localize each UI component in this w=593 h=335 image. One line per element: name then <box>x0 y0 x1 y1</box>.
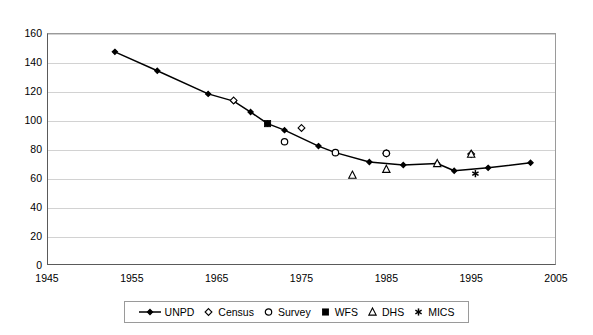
legend-marker-census-icon <box>203 306 214 318</box>
data-point-open-circle <box>265 309 271 315</box>
legend-label: Census <box>218 307 254 318</box>
legend-label: DHS <box>382 307 404 318</box>
legend-item-wfs[interactable]: WFS <box>320 306 358 318</box>
data-point-filled-diamond <box>316 144 321 149</box>
data-point-filled-diamond <box>367 159 372 164</box>
legend-item-dhs[interactable]: DHS <box>367 306 404 318</box>
legend-label: UNPD <box>165 307 195 318</box>
data-point-open-circle <box>383 150 389 156</box>
data-point-asterisk <box>416 308 422 315</box>
x-tick-label: 1965 <box>205 272 228 284</box>
chart-legend: UNPDCensusSurveyWFSDHSMICS <box>124 301 469 323</box>
x-tick-label: 1985 <box>375 272 398 284</box>
legend-label: Survey <box>278 307 311 318</box>
legend-marker-unpd-icon <box>139 306 161 318</box>
x-tick-label: 1955 <box>120 272 143 284</box>
chart-figure: 160140120100806040200 194519551965197519… <box>0 0 593 335</box>
data-point-open-triangle <box>369 308 376 315</box>
data-point-filled-diamond <box>155 68 160 73</box>
data-point-open-diamond <box>205 309 212 316</box>
data-point-filled-diamond <box>147 309 152 314</box>
data-point-filled-diamond <box>206 91 211 96</box>
legend-item-mics[interactable]: MICS <box>413 306 454 318</box>
data-point-filled-square <box>322 309 328 315</box>
legend-label: MICS <box>428 307 454 318</box>
data-point-filled-square <box>264 121 270 127</box>
data-point-open-diamond <box>298 125 305 132</box>
legend-marker-dhs-icon <box>367 306 378 318</box>
data-point-filled-diamond <box>401 162 406 167</box>
data-point-filled-diamond <box>452 168 457 173</box>
x-tick-label: 2005 <box>544 272 567 284</box>
x-tick-label: 1945 <box>35 272 58 284</box>
series-survey <box>281 139 389 157</box>
legend-marker-survey-icon <box>263 306 274 318</box>
data-point-filled-diamond <box>112 49 117 54</box>
series-census <box>230 97 474 157</box>
legend-marker-mics-icon <box>413 306 424 318</box>
data-point-open-circle <box>332 149 338 155</box>
series-mics <box>472 170 478 177</box>
legend-marker-wfs-icon <box>320 306 331 318</box>
legend-item-unpd[interactable]: UNPD <box>139 306 195 318</box>
data-point-filled-diamond <box>486 165 491 170</box>
legend-item-census[interactable]: Census <box>203 306 254 318</box>
legend-label: WFS <box>335 307 358 318</box>
legend-item-survey[interactable]: Survey <box>263 306 311 318</box>
data-point-open-circle <box>281 139 287 145</box>
data-point-asterisk <box>472 170 478 177</box>
x-tick-label: 1975 <box>290 272 313 284</box>
data-point-open-triangle <box>383 165 390 172</box>
x-tick-label: 1995 <box>459 272 482 284</box>
data-point-open-triangle <box>349 171 356 178</box>
data-point-filled-diamond <box>528 160 533 165</box>
data-point-filled-diamond <box>282 128 287 133</box>
chart-canvas <box>0 0 593 335</box>
series-wfs <box>264 121 270 127</box>
